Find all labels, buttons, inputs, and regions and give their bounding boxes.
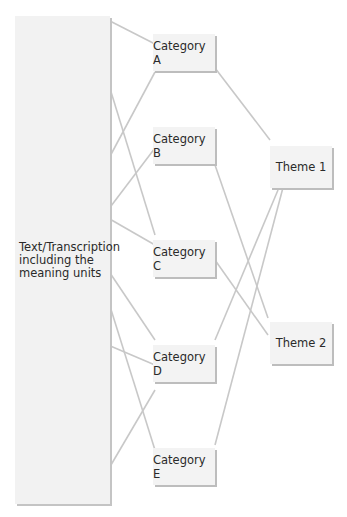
category-b-box: Category B (153, 127, 215, 164)
category-d-box: Category D (153, 345, 215, 382)
theme-2-box: Theme 2 (270, 322, 332, 364)
category-a-label: Category A (153, 39, 215, 67)
theme-2-label: Theme 2 (276, 336, 327, 350)
theme-1-box: Theme 1 (270, 146, 332, 188)
category-c-box: Category C (153, 240, 215, 277)
category-e-label: Category E (153, 453, 215, 481)
source-text-box: Text/Transcription including the meaning… (15, 16, 110, 504)
category-e-box: Category E (153, 448, 215, 485)
category-d-label: Category D (153, 350, 215, 378)
source-label: Text/Transcription including the meaning… (19, 241, 120, 280)
category-b-label: Category B (153, 132, 215, 160)
category-c-label: Category C (153, 245, 215, 273)
category-a-box: Category A (153, 34, 215, 71)
theme-1-label: Theme 1 (276, 160, 327, 174)
